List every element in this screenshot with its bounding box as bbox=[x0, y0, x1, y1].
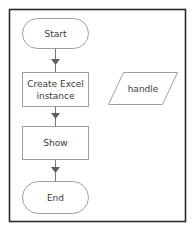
node-create-excel-label-line2: instance bbox=[36, 91, 75, 101]
node-create-excel-label-line1: Create Excel bbox=[27, 79, 84, 89]
node-start-label: Start bbox=[45, 29, 67, 39]
node-handle-label: handle bbox=[128, 84, 159, 94]
node-start[interactable]: Start bbox=[23, 19, 89, 49]
node-create-excel[interactable]: Create Excel instance bbox=[23, 73, 89, 107]
node-end-label: End bbox=[47, 193, 64, 203]
node-show-label: Show bbox=[43, 138, 67, 148]
node-show[interactable]: Show bbox=[23, 127, 89, 160]
node-end[interactable]: End bbox=[23, 182, 89, 214]
flowchart-canvas: Start Create Excel instance Show End han… bbox=[0, 0, 194, 232]
